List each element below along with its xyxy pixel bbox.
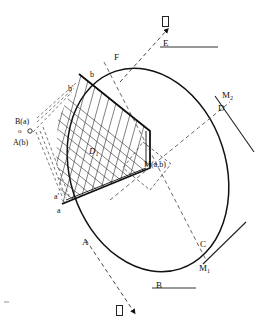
label-A-of-b: A(b) [13, 139, 28, 147]
origin-marker [28, 129, 32, 133]
label-point-A: A [82, 238, 89, 247]
axis-arrow-top [120, 30, 167, 82]
geometry-figure: E F M2 D C M1 B A M(a,b) D1 b b' a' a B(… [0, 0, 269, 332]
ellipse-outline [42, 47, 255, 293]
tofu-box-top [162, 16, 169, 27]
label-point-M2-sub: 2 [230, 95, 233, 101]
label-point-F: F [114, 53, 119, 62]
label-point-B: B [156, 281, 162, 290]
tofu-box-bottom [116, 305, 123, 316]
label-axis-b-prime: b' [68, 85, 73, 93]
diagram-canvas [0, 0, 269, 332]
arrow-top-glyph-icon [162, 16, 169, 27]
arrow-bottom-glyph-icon [116, 305, 123, 316]
label-region-D1-sub: 1 [96, 151, 99, 157]
dashed-axis-ne [110, 102, 230, 200]
label-point-M1-text: M [199, 263, 207, 273]
label-point-M2: M2 [222, 91, 233, 100]
tangent-at-M1 [203, 222, 246, 264]
label-point-E: E [163, 39, 169, 48]
label-point-D: D [218, 104, 225, 113]
label-region-D1-text: D [89, 146, 96, 156]
label-region-D1: D1 [89, 147, 99, 156]
label-point-C: C [200, 240, 206, 249]
label-point-M2-text: M [222, 90, 230, 100]
label-origin-o: o [18, 128, 22, 135]
label-center-M: M(a,b) [144, 161, 166, 169]
label-axis-a-prime: a' [54, 193, 59, 201]
label-point-M1: M1 [199, 264, 210, 273]
label-axis-b: b [90, 71, 94, 79]
label-B-of-a: B(a) [15, 118, 29, 126]
label-axis-a: a [57, 207, 61, 215]
label-point-M1-sub: 1 [207, 268, 210, 274]
